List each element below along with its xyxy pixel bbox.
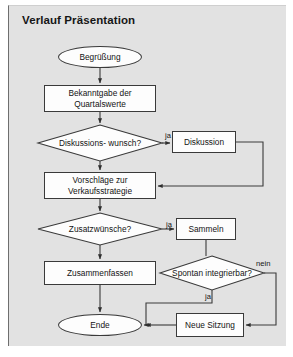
node-neue-sitzung[interactable]: Neue Sitzung xyxy=(176,313,244,337)
node-label: Spontan integrierbar? xyxy=(172,268,252,278)
node-label: Diskussion xyxy=(184,137,224,147)
node-label: Zusatzwünsche? xyxy=(69,224,131,234)
node-label: Begrüßung xyxy=(79,52,120,62)
edge-label-nein-neue-sitzung: nein xyxy=(256,259,270,268)
diagram-canvas: Verlauf Präsentation xyxy=(0,0,293,357)
edge-label-ja-sammeln: ja xyxy=(166,220,172,229)
node-label: Ende xyxy=(90,320,109,330)
node-ende[interactable]: Ende xyxy=(58,314,142,336)
node-label: Neue Sitzung xyxy=(185,320,235,330)
node-diskussionswunsch[interactable]: Diskussions- wunsch? xyxy=(38,125,162,161)
page-title: Verlauf Präsentation xyxy=(22,14,135,26)
node-vorschlaege[interactable]: Vorschläge zur Verkaufsstrategie xyxy=(44,172,156,199)
node-begruessung[interactable]: Begrüßung xyxy=(58,46,142,68)
node-sammeln[interactable]: Sammeln xyxy=(176,218,236,240)
node-bekanntgabe[interactable]: Bekanntgabe der Quartalswerte xyxy=(44,85,156,112)
edge-label-ja-diskussion: ja xyxy=(165,131,171,140)
node-label: Zusammenfassen xyxy=(67,268,133,278)
node-label: Bekanntgabe der Quartalswerte xyxy=(45,88,155,108)
node-diskussion[interactable]: Diskussion xyxy=(172,131,236,153)
node-spontan[interactable]: Spontan integrierbar? xyxy=(160,256,264,290)
node-label: Sammeln xyxy=(188,224,223,234)
edge-label-ja-ende: ja xyxy=(205,292,211,301)
node-zusammenfassen[interactable]: Zusammenfassen xyxy=(44,261,156,285)
node-label: Diskussions- wunsch? xyxy=(59,138,141,148)
node-label: Vorschläge zur Verkaufsstrategie xyxy=(45,175,155,195)
node-zusatzwuensche[interactable]: Zusatzwünsche? xyxy=(38,213,162,245)
